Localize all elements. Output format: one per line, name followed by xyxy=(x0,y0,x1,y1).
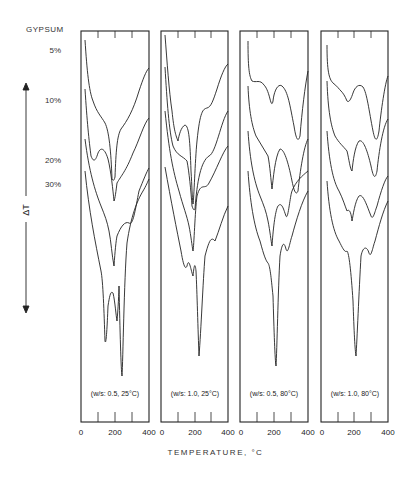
curves xyxy=(327,45,388,356)
svg-text:400: 400 xyxy=(221,428,235,437)
svg-text:0: 0 xyxy=(239,428,244,437)
curve-5pct xyxy=(327,45,388,139)
curve-10pct xyxy=(165,67,228,210)
curve-20pct xyxy=(248,131,308,246)
svg-text:400: 400 xyxy=(142,428,156,437)
svg-text:400: 400 xyxy=(301,428,315,437)
curve-30pct xyxy=(85,171,149,376)
panel-2: (w/s: 1.0, 25°C) xyxy=(161,31,228,422)
svg-text:0: 0 xyxy=(79,428,84,437)
delta-t-axis-arrow xyxy=(23,83,29,313)
svg-text:200: 200 xyxy=(347,428,361,437)
curve-5pct xyxy=(165,35,228,204)
curves xyxy=(165,35,228,356)
curve-5pct xyxy=(85,40,149,180)
dta-figure: ΔT (w/s: 0.5, 25°C) (w/s: 1.0, 25°C) xyxy=(0,0,411,477)
curve-30pct xyxy=(327,181,388,356)
curve-5pct xyxy=(248,41,308,139)
x-tick-labels: 0 200 400 0 200 400 0 200 400 0 200 400 xyxy=(79,428,395,437)
x-axis-label: TEMPERATURE, °C xyxy=(0,448,411,457)
panel-1: (w/s: 0.5, 25°C) xyxy=(81,31,149,422)
y-axis-label: ΔT xyxy=(21,204,31,216)
svg-text:200: 200 xyxy=(108,428,122,437)
svg-text:0: 0 xyxy=(160,428,165,437)
svg-text:200: 200 xyxy=(188,428,202,437)
svg-text:400: 400 xyxy=(381,428,395,437)
curve-30pct xyxy=(248,171,308,366)
curves xyxy=(85,40,149,376)
curve-10pct xyxy=(248,86,308,193)
svg-text:200: 200 xyxy=(267,428,281,437)
panel-2-label: (w/s: 1.0, 25°C) xyxy=(171,390,219,398)
panel-4-label: (w/s: 1.0, 80°C) xyxy=(331,390,379,398)
panel-1-label: (w/s: 0.5, 25°C) xyxy=(91,390,139,398)
curves xyxy=(248,41,308,366)
svg-text:0: 0 xyxy=(320,428,325,437)
arrow-up-icon xyxy=(23,83,29,90)
curve-20pct xyxy=(85,139,149,266)
panel-3-label: (w/s: 0.5, 80°C) xyxy=(250,390,298,398)
panel-4: (w/s: 1.0, 80°C) xyxy=(321,31,388,422)
arrow-down-icon xyxy=(23,306,29,313)
panel-3: (w/s: 0.5, 80°C) xyxy=(240,31,308,422)
